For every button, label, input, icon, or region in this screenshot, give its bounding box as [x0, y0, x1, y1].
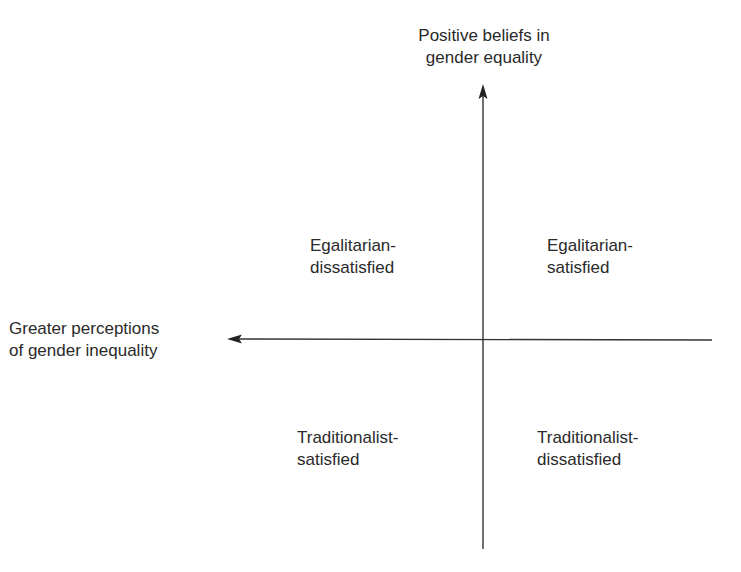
quadrant-top-left: Egalitarian- dissatisfied: [310, 235, 396, 279]
quadrant-top-right-line1: Egalitarian-: [547, 235, 633, 257]
y-axis-label: Positive beliefs in gender equality: [395, 25, 573, 69]
x-axis-label-line1: Greater perceptions: [9, 318, 224, 340]
quadrant-top-left-line2: dissatisfied: [310, 257, 396, 279]
quadrant-top-left-line1: Egalitarian-: [310, 235, 396, 257]
y-axis-label-line1: Positive beliefs in: [395, 25, 573, 47]
quadrant-bottom-left-line1: Traditionalist-: [297, 427, 398, 449]
quadrant-bottom-left: Traditionalist- satisfied: [297, 427, 398, 471]
quadrant-top-right: Egalitarian- satisfied: [547, 235, 633, 279]
quadrant-bottom-right: Traditionalist- dissatisfied: [537, 427, 638, 471]
x-axis-line: [234, 339, 712, 340]
quadrant-bottom-right-line2: dissatisfied: [537, 449, 638, 471]
quadrant-bottom-left-line2: satisfied: [297, 449, 398, 471]
quadrant-top-right-line2: satisfied: [547, 257, 633, 279]
axes: [0, 0, 741, 572]
quadrant-bottom-right-line1: Traditionalist-: [537, 427, 638, 449]
y-axis-label-line2: gender equality: [395, 47, 573, 69]
x-axis-label-line2: of gender inequality: [9, 340, 224, 362]
x-axis-label: Greater perceptions of gender inequality: [9, 318, 224, 362]
